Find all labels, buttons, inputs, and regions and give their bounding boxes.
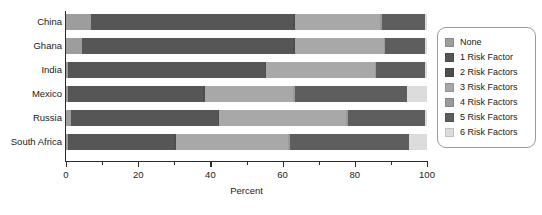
bar-segment [382,14,425,30]
bar-segment [425,14,427,30]
x-tick-minor [319,161,320,165]
x-tick-major [283,161,284,167]
y-axis-label: Ghana [2,38,62,54]
x-tick-major [427,161,428,167]
bar-row [66,110,427,126]
y-axis-label: China [2,14,62,30]
bar-segment [295,14,380,30]
bar-segment [295,38,383,54]
bar-segment [91,14,293,30]
bar-segment [205,86,293,102]
legend-label: None [460,35,482,50]
x-tick-minor [391,161,392,165]
x-tick-label: 60 [277,169,288,180]
legend-item[interactable]: None [445,35,529,50]
y-axis-label: Mexico [2,86,62,102]
bar-segment [66,14,91,30]
legend-label: 2 Risk Factors [460,65,518,80]
x-tick-label: 0 [63,169,68,180]
x-tick-minor [102,161,103,165]
legend-swatch-icon [445,98,454,107]
legend-item[interactable]: 3 Risk Factors [445,80,529,95]
bar-row [66,86,427,102]
y-axis-label: Russia [2,110,62,126]
chart-root: ChinaGhanaIndiaMexicoRussiaSouth Africa … [0,0,542,215]
bar-segment [376,62,425,78]
bar-row [66,134,427,150]
legend-item[interactable]: 1 Risk Factor [445,50,529,65]
bar-segment [425,110,427,126]
legend-item[interactable]: 6 Risk Factors [445,125,529,140]
x-tick-major [355,161,356,167]
x-tick-minor [174,161,175,165]
legend-item[interactable]: 5 Risk Factors [445,110,529,125]
legend-label: 1 Risk Factor [460,50,513,65]
bar-segment [68,86,203,102]
legend-label: 4 Risk Factors [460,95,518,110]
y-axis-line [65,11,66,161]
bar-segment [295,86,407,102]
legend-label: 6 Risk Factors [460,125,518,140]
legend-swatch-icon [445,128,454,137]
bar-row [66,14,427,30]
legend: None1 Risk Factor2 Risk Factors3 Risk Fa… [437,27,536,148]
legend-swatch-icon [445,68,454,77]
bar-segment [348,110,426,126]
bar-segment [425,62,427,78]
bar-segment [425,38,427,54]
x-tick-major [66,161,67,167]
x-tick-label: 40 [205,169,216,180]
y-axis-label: India [2,62,62,78]
legend-swatch-icon [445,83,454,92]
bar-segment [266,62,374,78]
legend-label: 3 Risk Factors [460,80,518,95]
x-tick-major [138,161,139,167]
bar-segment [409,134,427,150]
legend-label: 5 Risk Factors [460,110,518,125]
legend-item[interactable]: 4 Risk Factors [445,95,529,110]
x-tick-label: 100 [419,169,435,180]
x-tick-major [210,161,211,167]
legend-swatch-icon [445,38,454,47]
legend-item[interactable]: 2 Risk Factors [445,65,529,80]
y-axis-tick-labels: ChinaGhanaIndiaMexicoRussiaSouth Africa [0,12,62,160]
bar-row [66,38,427,54]
bar-segment [385,38,425,54]
bar-segment [68,134,174,150]
x-tick-minor [247,161,248,165]
x-tick-label: 20 [133,169,144,180]
bar-segment [66,38,82,54]
y-axis-label: South Africa [2,134,62,150]
bar-segment [407,86,427,102]
bar-segment [219,110,345,126]
legend-swatch-icon [445,113,454,122]
bar-segment [176,134,288,150]
bar-segment [290,134,409,150]
bar-segment [71,110,217,126]
legend-swatch-icon [445,53,454,62]
x-tick-label: 80 [350,169,361,180]
bar-segment [68,62,265,78]
x-axis-title: Percent [66,185,427,196]
bar-segment [82,38,293,54]
plot-area [66,12,427,160]
bar-row [66,62,427,78]
